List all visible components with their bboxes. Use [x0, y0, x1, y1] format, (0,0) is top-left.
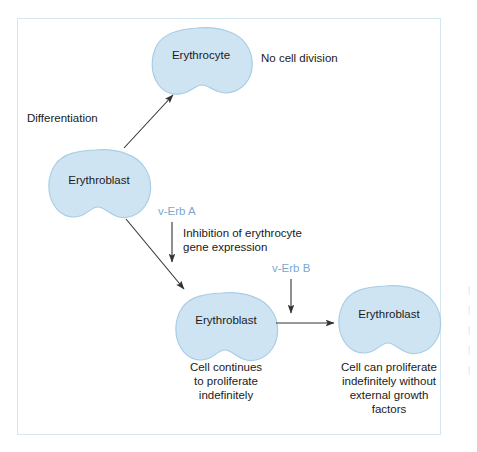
- caption-middle-line1: Cell continues: [190, 361, 262, 373]
- cell-erythroblast-left: Erythroblast: [49, 150, 151, 218]
- edge-caption-fragment: |: [468, 285, 470, 295]
- label-inhibition-line2: gene expression: [183, 241, 267, 253]
- cell-label-erythrocyte-top: Erythrocyte: [172, 49, 230, 61]
- label-inhibition-line1: Inhibition of erythrocyte: [183, 227, 302, 239]
- edge-caption-fragment: |: [468, 345, 470, 355]
- diagram-svg: Erythrocyte No cell division Erythroblas…: [0, 0, 477, 452]
- cell-label-erythroblast-middle: Erythroblast: [195, 314, 257, 326]
- cell-label-erythroblast-right: Erythroblast: [358, 308, 420, 320]
- caption-right-line4: factors: [372, 403, 407, 415]
- caption-right-line2: indefinitely without: [342, 375, 437, 387]
- cell-erythroblast-middle: Erythroblast: [176, 293, 278, 361]
- caption-middle-line2: to proliferate: [194, 375, 258, 387]
- figure-canvas: Erythrocyte No cell division Erythroblas…: [0, 0, 477, 452]
- arrow-differentiation: [124, 95, 173, 148]
- caption-middle-line3: indefinitely: [199, 389, 254, 401]
- cell-label-erythroblast-left: Erythroblast: [68, 174, 130, 186]
- arrow-to-middle-erythroblast: [126, 219, 184, 289]
- cell-erythrocyte-top: Erythrocyte: [152, 28, 252, 95]
- label-v-erb-b: v-Erb B: [272, 262, 311, 274]
- edge-caption-fragment: |: [468, 365, 470, 375]
- label-no-cell-division: No cell division: [261, 52, 338, 64]
- caption-right-line1: Cell can proliferate: [341, 361, 437, 373]
- label-v-erb-a: v-Erb A: [158, 205, 196, 217]
- caption-right-line3: external growth: [350, 389, 429, 401]
- edge-caption-fragment: |: [468, 305, 470, 315]
- cell-erythroblast-right: Erythroblast: [339, 286, 441, 354]
- cell-blob-icon: [176, 293, 278, 361]
- edge-caption-fragment: |: [468, 325, 470, 335]
- label-differentiation: Differentiation: [27, 112, 98, 124]
